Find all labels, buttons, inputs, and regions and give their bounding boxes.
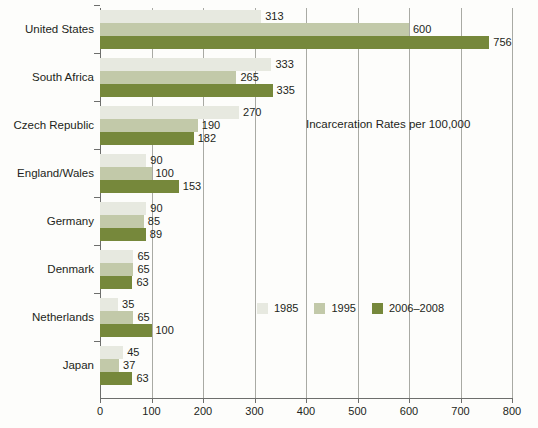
tickmark-400: [306, 398, 307, 403]
bar: [100, 23, 409, 36]
bar: [100, 58, 271, 71]
category-label-england-wales: England/Wales: [0, 167, 94, 179]
bar: [100, 324, 152, 337]
bar: [100, 180, 179, 193]
bar: [100, 132, 194, 145]
y-tickmark-5: [94, 245, 100, 246]
gridline-500: [358, 8, 359, 398]
bar: [100, 202, 146, 215]
bar-value-label: 100: [156, 167, 174, 180]
category-label-united-states: United States: [0, 23, 94, 35]
bar-value-label: 35: [122, 298, 134, 311]
tickmark-100: [152, 398, 153, 403]
bar-value-label: 100: [156, 324, 174, 337]
incarceration-rates-bar-chart: 0100200300400500600700800 United StatesS…: [0, 0, 538, 428]
category-label-japan: Japan: [0, 359, 94, 371]
x-tick-label-200: 200: [194, 405, 212, 417]
legend-swatch-1995: [314, 303, 325, 314]
bar-value-label: 335: [277, 84, 295, 97]
category-label-czech-republic: Czech Republic: [0, 119, 94, 131]
y-tickmark-3: [94, 149, 100, 150]
bar: [100, 372, 132, 385]
bar: [100, 36, 489, 49]
x-tick-label-500: 500: [348, 405, 366, 417]
gridline-600: [409, 8, 410, 398]
bar-value-label: 90: [150, 202, 162, 215]
bar-value-label: 190: [202, 119, 220, 132]
bar: [100, 84, 273, 97]
y-tickmark-1: [94, 53, 100, 54]
x-tick-label-100: 100: [142, 405, 160, 417]
y-tickmark-6: [94, 293, 100, 294]
gridline-700: [461, 8, 462, 398]
bar-value-label: 65: [137, 263, 149, 276]
y-tickmark-2: [94, 101, 100, 102]
bar-value-label: 270: [243, 106, 261, 119]
gridline-400: [306, 8, 307, 398]
x-tick-label-300: 300: [245, 405, 263, 417]
bar-value-label: 182: [198, 132, 216, 145]
bar-value-label: 756: [493, 36, 511, 49]
bar: [100, 215, 144, 228]
bar-value-label: 63: [136, 276, 148, 289]
x-tick-label-400: 400: [297, 405, 315, 417]
bar: [100, 298, 118, 311]
bar-value-label: 600: [413, 23, 431, 36]
chart-title: Incarceration Rates per 100,000: [306, 118, 470, 130]
x-tick-label-800: 800: [503, 405, 521, 417]
bar: [100, 119, 198, 132]
tickmark-700: [461, 398, 462, 403]
category-label-denmark: Denmark: [0, 263, 94, 275]
legend-item-2006-2008: 2006–2008: [372, 302, 444, 314]
bar: [100, 359, 119, 372]
legend-item-1995: 1995: [314, 302, 355, 314]
legend-label-2006-2008: 2006–2008: [389, 302, 444, 314]
bar: [100, 263, 133, 276]
bar: [100, 311, 133, 324]
legend-label-1985: 1985: [274, 302, 298, 314]
legend-label-1995: 1995: [331, 302, 355, 314]
bar-value-label: 65: [137, 311, 149, 324]
y-tickmark-4: [94, 197, 100, 198]
tickmark-300: [255, 398, 256, 403]
legend-swatch-2006-2008: [372, 303, 383, 314]
bar: [100, 106, 239, 119]
bar: [100, 276, 132, 289]
y-tickmark-0: [94, 5, 100, 6]
category-label-south-africa: South Africa: [0, 71, 94, 83]
tickmark-500: [358, 398, 359, 403]
chart-legend: 1985 1995 2006–2008: [257, 302, 460, 314]
category-label-netherlands: Netherlands: [0, 311, 94, 323]
gridline-800: [512, 8, 513, 398]
x-tick-label-600: 600: [400, 405, 418, 417]
legend-swatch-1985: [257, 303, 268, 314]
y-tickmark-7: [94, 341, 100, 342]
bar: [100, 228, 146, 241]
tickmark-600: [409, 398, 410, 403]
bar: [100, 10, 261, 23]
bar-value-label: 265: [240, 71, 258, 84]
bar-value-label: 89: [150, 228, 162, 241]
bar-value-label: 65: [137, 250, 149, 263]
bar-value-label: 85: [148, 215, 160, 228]
tickmark-800: [512, 398, 513, 403]
bar-value-label: 333: [275, 58, 293, 71]
bar-value-label: 313: [265, 10, 283, 23]
bar-value-label: 63: [136, 372, 148, 385]
bar-value-label: 45: [127, 346, 139, 359]
bar: [100, 167, 152, 180]
bar-value-label: 153: [183, 180, 201, 193]
bar: [100, 250, 133, 263]
tickmark-0: [100, 398, 101, 403]
bar-value-label: 90: [150, 154, 162, 167]
x-tick-label-0: 0: [97, 405, 103, 417]
bar: [100, 154, 146, 167]
bar-value-label: 37: [123, 359, 135, 372]
x-tick-label-700: 700: [451, 405, 469, 417]
category-label-germany: Germany: [0, 215, 94, 227]
bar: [100, 346, 123, 359]
legend-item-1985: 1985: [257, 302, 298, 314]
tickmark-200: [203, 398, 204, 403]
bar: [100, 71, 236, 84]
